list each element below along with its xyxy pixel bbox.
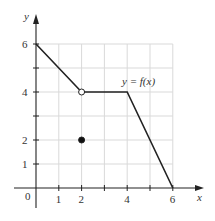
origin-label: 0 bbox=[25, 190, 31, 202]
x-tick-label: 1 bbox=[56, 193, 62, 205]
y-tick-label: 4 bbox=[22, 86, 28, 98]
ticks: 12461246 bbox=[22, 38, 176, 205]
y-axis-arrow-icon bbox=[33, 14, 39, 24]
x-tick-label: 6 bbox=[170, 193, 176, 205]
function-label: y = f(x) bbox=[121, 75, 155, 88]
x-tick-label: 2 bbox=[79, 193, 85, 205]
filled-point bbox=[79, 137, 85, 143]
axes bbox=[14, 14, 204, 208]
x-tick-label: 4 bbox=[124, 193, 130, 205]
y-tick-label: 6 bbox=[22, 38, 28, 50]
chart: 12461246 x y 0 y = f(x) bbox=[0, 0, 215, 221]
y-tick-label: 1 bbox=[22, 158, 28, 170]
open-point bbox=[79, 89, 85, 95]
x-axis-label: x bbox=[196, 191, 202, 203]
y-axis-label: y bbox=[23, 10, 29, 22]
y-tick-label: 2 bbox=[22, 134, 28, 146]
